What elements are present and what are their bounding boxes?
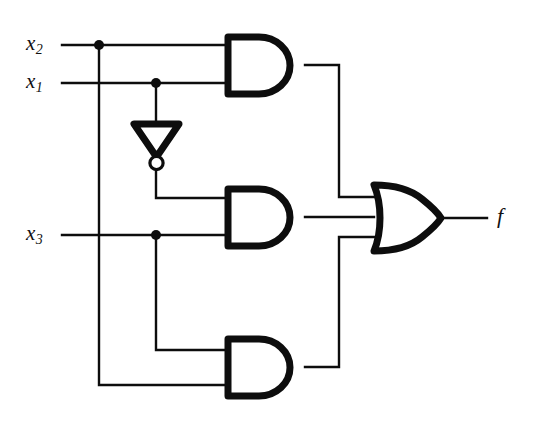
junction-dot-x1: [151, 78, 161, 88]
input-label-x3-base: x: [26, 221, 35, 245]
input-label-x1-base: x: [26, 69, 35, 93]
and-gate-middle-body: [228, 189, 290, 246]
input-label-x1-sub: 1: [36, 80, 43, 95]
or-gate-body: [374, 185, 441, 251]
junction-dot-x3: [151, 230, 161, 240]
wire-and-top-out-to-or: [305, 65, 374, 197]
not-gate-triangle: [134, 124, 179, 157]
circuit-canvas: [0, 0, 535, 429]
output-label-f: f: [497, 205, 503, 227]
input-label-x2: x2: [26, 33, 43, 57]
input-label-x3-sub: 3: [36, 232, 43, 247]
logic-circuit-diagram: x2 x1 x3 f: [0, 0, 535, 429]
and-gate-top-body: [228, 37, 290, 94]
input-label-x3: x3: [26, 223, 43, 247]
input-label-x1: x1: [26, 71, 43, 95]
input-label-x2-base: x: [26, 31, 35, 55]
input-label-x2-sub: 2: [36, 42, 43, 57]
and-gate-bottom-body: [228, 339, 290, 396]
junction-dot-x2: [94, 40, 104, 50]
wire-x2-branch-to-bottom-and: [99, 45, 225, 385]
wire-x3-branch-to-bottom-and: [156, 235, 225, 350]
wire-inverter-out-to-middle-and: [156, 169, 225, 198]
wire-and-bottom-out-to-or: [305, 237, 374, 367]
not-gate-bubble: [150, 156, 163, 169]
